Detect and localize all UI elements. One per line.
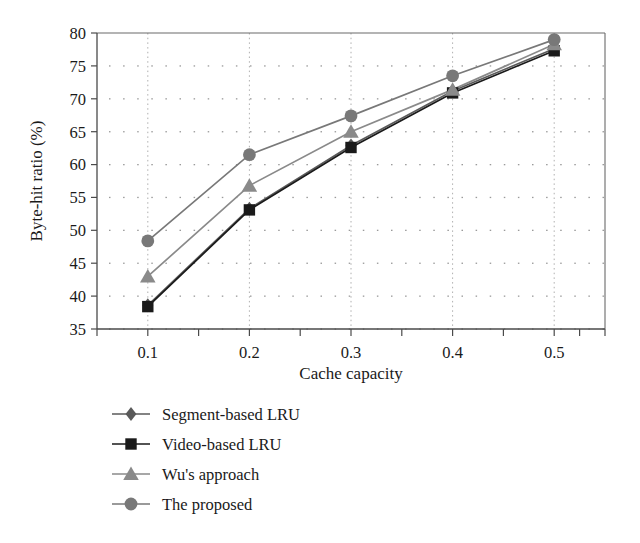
legend-label: Wu's approach	[162, 465, 260, 484]
x-tick-label: 0.3	[341, 343, 362, 362]
series-marker-circle	[243, 148, 256, 161]
x-axis-title: Cache capacity	[299, 364, 403, 383]
byte-hit-ratio-line-chart: 35404550556065707580 0.10.20.30.40.5 Cac…	[0, 0, 640, 543]
series-marker-circle	[125, 498, 138, 511]
series-marker-square	[345, 142, 356, 153]
x-tick-label: 0.4	[442, 343, 463, 362]
legend-label: Video-based LRU	[162, 435, 282, 454]
y-tick-label: 70	[70, 90, 87, 109]
y-tick-label: 40	[70, 287, 87, 306]
y-tick-label: 80	[70, 24, 87, 43]
x-tick-label: 0.1	[137, 343, 158, 362]
y-tick-label: 50	[70, 221, 87, 240]
x-tick-label: 0.5	[544, 343, 565, 362]
y-tick-label: 55	[70, 188, 87, 207]
y-tick-label: 35	[70, 320, 87, 339]
legend-label: The proposed	[162, 495, 253, 514]
legend-label: Segment-based LRU	[162, 405, 300, 424]
series-marker-circle	[548, 33, 561, 46]
series-marker-square	[244, 204, 255, 215]
y-tick-label: 60	[70, 155, 87, 174]
x-tick-label: 0.2	[239, 343, 260, 362]
y-axis-title: Byte-hit ratio (%)	[27, 121, 46, 242]
figure-background	[0, 0, 640, 543]
series-marker-square	[125, 438, 136, 449]
y-tick-label: 75	[70, 57, 87, 76]
series-marker-circle	[141, 235, 154, 248]
chart-figure: 35404550556065707580 0.10.20.30.40.5 Cac…	[0, 0, 640, 543]
series-marker-square	[142, 301, 153, 312]
series-marker-circle	[345, 110, 358, 123]
y-tick-label: 45	[70, 254, 87, 273]
series-marker-circle	[446, 69, 459, 82]
y-tick-label: 65	[70, 123, 87, 142]
